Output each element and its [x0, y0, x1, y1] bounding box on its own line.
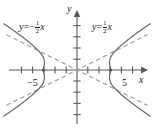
x-axis-label: x — [139, 75, 143, 85]
left-eq-sign: − — [29, 21, 35, 32]
x-tick-label-positive-5: 5 — [122, 78, 127, 88]
right-asymptote-equation-label: y=12x — [92, 20, 112, 36]
hyperbola-figure: y=−12x y=12x −5 5 x y — [0, 0, 155, 129]
left-asymptote-equation-label: y=−12x — [19, 20, 45, 36]
y-axis — [74, 10, 81, 124]
right-eq-variable: x — [108, 21, 112, 32]
left-eq-fraction: 12 — [35, 20, 40, 36]
vertex-left-marker — [42, 69, 45, 72]
left-eq-variable: x — [40, 21, 44, 32]
vertex-right-marker — [109, 69, 112, 72]
right-eq-denominator: 2 — [103, 28, 108, 35]
x-tick-label-negative-5: −5 — [27, 78, 38, 88]
y-axis-label: y — [67, 4, 71, 14]
left-eq-denominator: 2 — [35, 28, 40, 35]
right-eq-fraction: 12 — [103, 20, 108, 36]
right-eq-operator: = — [96, 21, 102, 32]
x-axis — [9, 67, 148, 74]
